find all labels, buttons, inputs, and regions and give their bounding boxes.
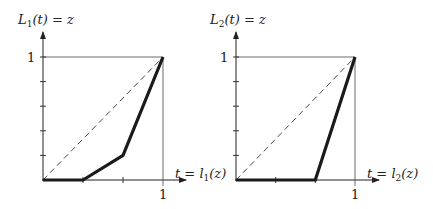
y-tick-label-1-l2: 1 (220, 50, 228, 65)
x-axis-label-l1: t = l1(z) (175, 166, 226, 183)
x-tick-label-1-l2: 1 (351, 187, 359, 202)
equality-line-l1 (43, 57, 163, 180)
x-tick-label-1-l1: 1 (159, 187, 167, 202)
x-axis-label-l2: t = l2(z) (367, 166, 418, 183)
y-axis-label-l1: L1(t) = z (17, 12, 74, 29)
y-tick-label-1-l1: 1 (27, 50, 35, 65)
equality-line-l2 (236, 57, 355, 180)
lorenz-curves-diagram: L1(t) = z 1 1 t = l1(z) L2(t (0, 0, 433, 209)
y-axis-label-l2: L2(t) = z (209, 12, 266, 29)
panel-l2: L2(t) = z 1 1 t = l2(z) (209, 12, 418, 202)
panel-l1: L1(t) = z 1 1 t = l1(z) (17, 12, 226, 202)
